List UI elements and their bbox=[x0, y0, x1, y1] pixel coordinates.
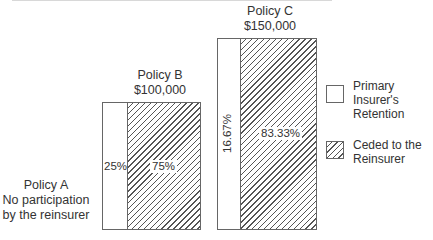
policy-b-label: Policy B $100,000 bbox=[120, 68, 200, 98]
policy-c-ceded-pct: 83.33% bbox=[259, 127, 302, 140]
top-border-line bbox=[12, 0, 332, 1]
policy-b-retention-pct: 25% bbox=[104, 160, 127, 173]
policy-b-name: Policy B bbox=[120, 68, 200, 83]
legend-retention-line2: Retention bbox=[353, 107, 433, 121]
policy-a-label: Policy A No participation by the reinsur… bbox=[0, 178, 92, 223]
legend-retention-swatch bbox=[326, 85, 344, 103]
legend-ceded-label: Ceded to the Reinsurer bbox=[353, 138, 422, 166]
legend-retention-label: Primary Insurer's Retention bbox=[353, 79, 433, 121]
legend-retention-line1: Primary Insurer's bbox=[353, 79, 433, 107]
policy-a-note-line2: by the reinsurer bbox=[0, 208, 92, 223]
policy-c-retention-pct: 16.67% bbox=[221, 114, 234, 153]
policy-c-bar: 16.67% 83.33% bbox=[217, 38, 317, 230]
policy-c-name: Policy C bbox=[225, 4, 315, 19]
legend-ceded-line1: Ceded to the bbox=[353, 138, 422, 152]
policy-a-name: Policy A bbox=[0, 178, 92, 193]
policy-c-label: Policy C $150,000 bbox=[225, 4, 315, 34]
policy-a-note-line1: No participation bbox=[0, 193, 92, 208]
legend-ceded-swatch bbox=[326, 141, 344, 159]
policy-b-ceded-pct: 75% bbox=[150, 160, 177, 173]
policy-c-amount: $150,000 bbox=[225, 19, 315, 34]
legend-ceded-line2: Reinsurer bbox=[353, 152, 422, 166]
policy-b-amount: $100,000 bbox=[120, 83, 200, 98]
policy-b-bar: 25% 75% bbox=[102, 102, 201, 230]
